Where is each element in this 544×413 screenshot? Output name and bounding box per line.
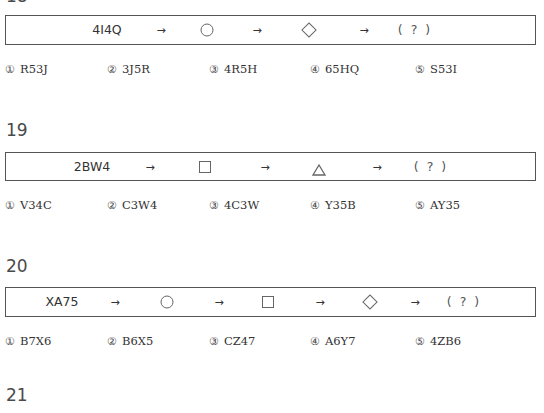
arrow-icon: → — [260, 161, 269, 172]
square-icon — [199, 161, 211, 173]
option-2[interactable]: ②C3W4 — [107, 198, 157, 212]
answer-options: ①R53J ②3J5R ③4R5H ④65HQ ⑤S53I — [5, 62, 535, 78]
answer-placeholder: ( ? ) — [447, 296, 481, 309]
arrow-icon: → — [214, 297, 223, 308]
question-number: 21 — [6, 387, 28, 404]
arrow-icon: → — [110, 297, 119, 308]
option-5[interactable]: ⑤AY35 — [415, 198, 460, 212]
option-3[interactable]: ③4R5H — [209, 62, 257, 76]
answer-placeholder: ( ? ) — [414, 160, 448, 173]
question-number: 20 — [6, 258, 28, 275]
arrow-icon: → — [410, 297, 419, 308]
diamond-icon — [362, 294, 378, 310]
option-1[interactable]: ①V34C — [5, 198, 52, 212]
sequence-start: 2BW4 — [74, 160, 110, 173]
arrow-icon: → — [156, 25, 165, 36]
answer-placeholder: ( ? ) — [398, 24, 432, 37]
sequence-start: XA75 — [45, 296, 78, 309]
arrow-icon: → — [372, 161, 381, 172]
circle-icon — [161, 296, 174, 309]
sequence-box: 4I4Q → → → ( ? ) — [5, 15, 536, 45]
sequence-box: 2BW4 → → → ( ? ) — [5, 152, 536, 181]
option-2[interactable]: ②3J5R — [107, 62, 150, 76]
option-4[interactable]: ④65HQ — [310, 62, 359, 76]
option-4[interactable]: ④A6Y7 — [310, 334, 356, 348]
answer-options: ①V34C ②C3W4 ③4C3W ④Y35B ⑤AY35 — [5, 198, 535, 214]
arrow-icon: → — [145, 161, 154, 172]
option-2[interactable]: ②B6X5 — [107, 334, 153, 348]
arrow-icon: → — [252, 25, 261, 36]
answer-options: ①B7X6 ②B6X5 ③CZ47 ④A6Y7 ⑤4ZB6 — [5, 334, 535, 350]
option-3[interactable]: ③CZ47 — [209, 334, 255, 348]
option-5[interactable]: ⑤4ZB6 — [415, 334, 461, 348]
question-number: 18 — [6, 0, 28, 5]
option-3[interactable]: ③4C3W — [209, 198, 259, 212]
diamond-icon — [301, 22, 317, 38]
square-icon — [262, 296, 274, 308]
arrow-icon: → — [315, 297, 324, 308]
option-1[interactable]: ①R53J — [5, 62, 48, 76]
circle-icon — [201, 24, 214, 37]
sequence-start: 4I4Q — [92, 24, 121, 37]
question-number: 19 — [6, 122, 28, 139]
arrow-icon: → — [359, 25, 368, 36]
sequence-box: XA75 → → → → ( ? ) — [5, 287, 536, 317]
option-4[interactable]: ④Y35B — [310, 198, 356, 212]
option-5[interactable]: ⑤S53I — [415, 62, 457, 76]
option-1[interactable]: ①B7X6 — [5, 334, 51, 348]
triangle-icon — [312, 161, 326, 173]
